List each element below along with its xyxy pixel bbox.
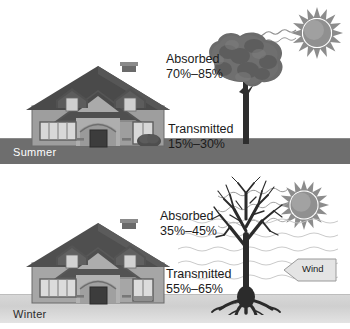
panel-winter: Winter: [0, 165, 350, 329]
wind-arrow: Wind: [282, 257, 338, 287]
callout-value: 35%–45%: [160, 224, 217, 239]
tree-bare: [196, 175, 296, 319]
callout-label: Absorbed: [166, 52, 223, 67]
callout-value: 15%–30%: [168, 137, 234, 152]
callout-label: Absorbed: [160, 209, 217, 224]
callout-absorbed-winter: Absorbed 35%–45%: [160, 209, 217, 239]
panel-summer: Summer: [0, 0, 350, 164]
shrub: [136, 130, 162, 146]
callout-absorbed-summer: Absorbed 70%–85%: [166, 52, 223, 82]
callout-label: Transmitted: [168, 122, 234, 137]
callout-value: 70%–85%: [166, 67, 223, 82]
callout-transmitted-summer: Transmitted 15%–30%: [168, 122, 234, 152]
figure-canvas: Summer: [0, 0, 350, 329]
callout-label: Transmitted: [166, 267, 232, 282]
callout-value: 55%–65%: [166, 282, 232, 297]
callout-transmitted-winter: Transmitted 55%–65%: [166, 267, 232, 297]
wind-label: Wind: [302, 263, 324, 274]
